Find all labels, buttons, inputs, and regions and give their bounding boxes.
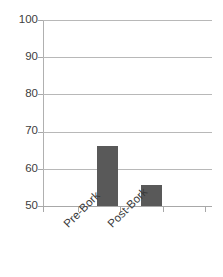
x-tick-mark-4: [205, 207, 206, 212]
gridline-80: [43, 94, 212, 95]
x-tick-mark-0: [43, 207, 44, 212]
x-tick-mark-3: [163, 207, 164, 212]
y-tick-label-100: 100: [4, 14, 38, 26]
y-axis-labels: 100 90 80 70 60 50: [0, 0, 38, 277]
plot-area: [43, 20, 212, 206]
y-tick-label-90: 90: [4, 51, 38, 63]
y-tick-label-60: 60: [4, 163, 38, 175]
gridline-70: [43, 132, 212, 133]
y-tick-label-70: 70: [4, 125, 38, 137]
bar-chart: 100 90 80 70 60 50 Pre-Bork Post-Bork: [0, 0, 223, 277]
gridline-60: [43, 169, 212, 170]
gridline-100: [43, 20, 212, 21]
y-tick-label-50: 50: [4, 200, 38, 212]
gridline-90: [43, 57, 212, 58]
y-tick-label-80: 80: [4, 88, 38, 100]
